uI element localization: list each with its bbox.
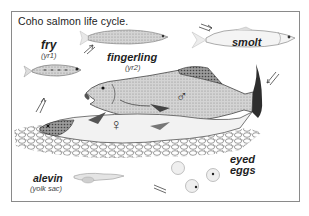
label-fry-note: (yr1)	[41, 51, 56, 60]
male-symbol: ♂	[176, 88, 188, 106]
label-fingerling: fingerling	[107, 51, 157, 63]
label-smolt: smolt	[232, 36, 261, 48]
adult-male-salmon	[84, 64, 262, 122]
female-symbol: ♀	[110, 116, 122, 134]
label-fingerling-note: (yr2)	[125, 63, 140, 72]
label-eggs: eggs	[230, 165, 256, 176]
label-alevin: alevin	[33, 172, 63, 184]
label-fry: fry	[41, 38, 56, 52]
arrow-alevin-to-fry	[36, 98, 46, 113]
alevin-fish	[74, 173, 124, 183]
label-alevin-note: (yolk sac)	[30, 184, 62, 193]
arrow-fingerling-to-smolt	[199, 24, 212, 31]
arrow-adult-to-eggs	[154, 185, 166, 193]
fry-fish	[24, 65, 81, 77]
fingerling-fish	[80, 30, 168, 45]
figure-title: Coho salmon life cycle.	[18, 15, 128, 27]
eyed-eggs	[172, 162, 220, 193]
arrow-fry-to-fingerling	[84, 45, 95, 54]
arrow-smolt-to-adult	[267, 72, 279, 85]
